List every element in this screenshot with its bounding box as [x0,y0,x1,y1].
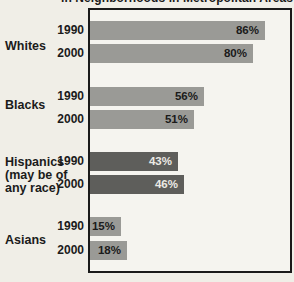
year-label-hispanics-2000: 2000 [38,175,84,194]
year-label-whites-1990: 1990 [38,21,84,40]
year-label-asians-1990: 1990 [38,217,84,236]
bar-whites-1990: 86% [90,21,265,40]
bar-asians-2000: 18% [90,241,127,260]
year-label-hispanics-1990: 1990 [38,152,84,171]
bar-blacks-2000: 51% [90,110,194,129]
bar-hispanics-2000: 46% [90,175,184,194]
chart-title: in Neighborhoods in Metropolitan Areas [61,0,293,5]
bar-blacks-1990: 56% [90,87,204,106]
bar-asians-1990: 15% [90,217,121,236]
bar-chart: in Neighborhoods in Metropolitan Areas W… [0,0,294,282]
year-label-whites-2000: 2000 [38,44,84,63]
bar-hispanics-1990: 43% [90,152,178,171]
bar-whites-2000: 80% [90,44,253,63]
year-label-blacks-1990: 1990 [38,87,84,106]
year-label-blacks-2000: 2000 [38,110,84,129]
year-label-asians-2000: 2000 [38,241,84,260]
